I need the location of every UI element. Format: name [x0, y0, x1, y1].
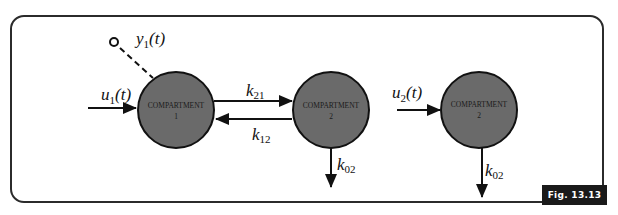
k02-left-label: k02	[337, 155, 356, 175]
svg-text:1: 1	[174, 112, 178, 121]
compartment-2-left: COMPARTMENT 2	[293, 72, 369, 148]
input-u2: u2(t)	[392, 83, 440, 110]
arrow-k21: k21	[214, 81, 292, 101]
figure-label: Fig. 13.13	[542, 185, 607, 205]
svg-text:2: 2	[477, 111, 481, 120]
svg-text:2: 2	[329, 112, 333, 121]
compartment-2-right: COMPARTMENT 2	[441, 72, 517, 148]
input-u1: u1(t)	[88, 85, 136, 108]
k12-label: k12	[252, 125, 271, 145]
compartment-1: COMPARTMENT 1	[138, 72, 214, 148]
k21-label: k21	[246, 81, 265, 101]
diagram-canvas: y1(t) u1(t) COMPARTMENT 1 k21	[0, 0, 618, 215]
arrow-k12: k12	[216, 119, 292, 145]
k02-right-label: k02	[485, 161, 504, 181]
svg-text:COMPARTMENT: COMPARTMENT	[148, 101, 205, 110]
u2-label: u2(t)	[392, 83, 422, 104]
sampling-probe-icon	[110, 38, 118, 46]
y1-label: y1(t)	[134, 29, 165, 50]
output-y1: y1(t)	[110, 29, 165, 78]
arrow-k02-right: k02	[482, 148, 504, 197]
arrow-k02-left: k02	[331, 148, 356, 187]
svg-text:COMPARTMENT: COMPARTMENT	[303, 101, 360, 110]
u1-label: u1(t)	[101, 85, 131, 106]
compartment-model-diagram: y1(t) u1(t) COMPARTMENT 1 k21	[0, 0, 618, 215]
svg-text:COMPARTMENT: COMPARTMENT	[451, 100, 508, 109]
